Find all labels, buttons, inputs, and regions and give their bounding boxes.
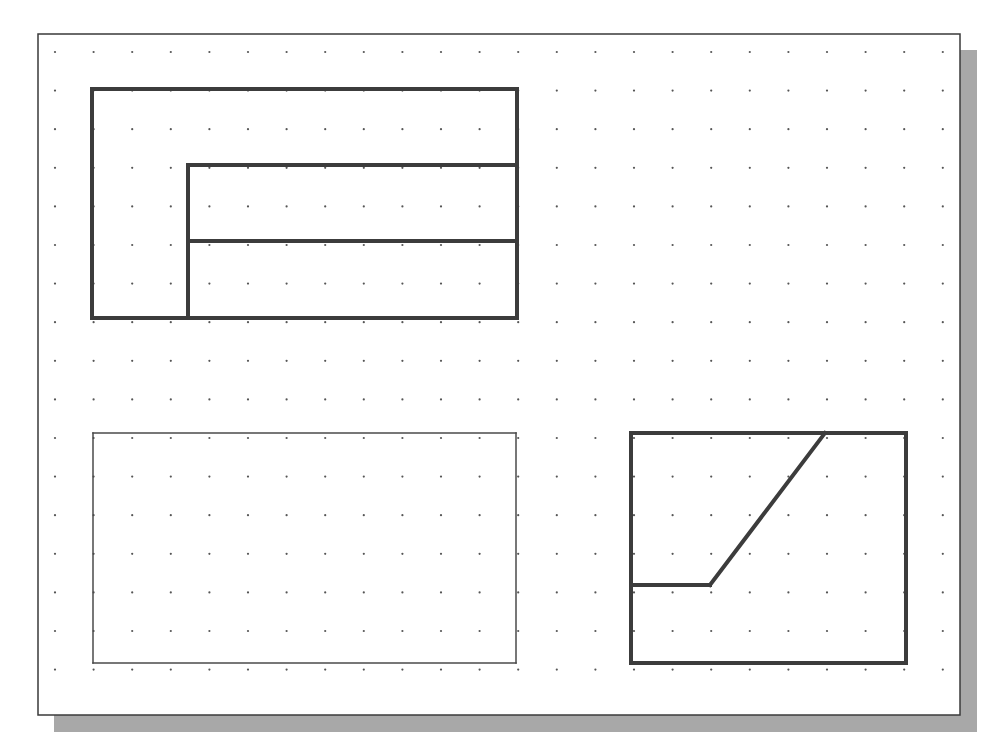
grid-dot xyxy=(942,514,944,516)
grid-dot xyxy=(324,321,326,323)
grid-dot xyxy=(131,205,133,207)
grid-dot xyxy=(170,398,172,400)
grid-dot xyxy=(865,283,867,285)
grid-dot xyxy=(749,167,751,169)
grid-dot xyxy=(440,553,442,555)
grid-dot xyxy=(594,630,596,632)
grid-dot xyxy=(363,205,365,207)
grid-dot xyxy=(865,128,867,130)
grid-dot xyxy=(903,669,905,671)
grid-dot xyxy=(826,321,828,323)
grid-dot xyxy=(710,630,712,632)
grid-dot xyxy=(749,283,751,285)
grid-dot xyxy=(324,591,326,593)
grid-dot xyxy=(54,360,56,362)
grid-dot xyxy=(787,553,789,555)
grid-dot xyxy=(247,167,249,169)
grid-dot xyxy=(749,244,751,246)
grid-dot xyxy=(787,244,789,246)
grid-dot xyxy=(479,360,481,362)
grid-dot xyxy=(633,283,635,285)
grid-dot xyxy=(247,51,249,53)
grid-dot xyxy=(749,514,751,516)
grid-dot xyxy=(556,90,558,92)
grid-dot xyxy=(594,90,596,92)
grid-dot xyxy=(363,244,365,246)
grid-dot xyxy=(93,398,95,400)
grid-dot xyxy=(479,630,481,632)
grid-dot xyxy=(826,283,828,285)
grid-dot xyxy=(710,128,712,130)
grid-dot xyxy=(54,398,56,400)
drawing-sheet[interactable] xyxy=(38,34,960,715)
grid-dot xyxy=(903,90,905,92)
grid-dot xyxy=(517,669,519,671)
grid-dot xyxy=(401,553,403,555)
grid-dot xyxy=(633,244,635,246)
grid-dot xyxy=(401,283,403,285)
grid-dot xyxy=(54,167,56,169)
grid-dot xyxy=(208,283,210,285)
grid-dot xyxy=(247,437,249,439)
grid-dot xyxy=(672,514,674,516)
grid-dot xyxy=(517,437,519,439)
grid-dot xyxy=(865,205,867,207)
grid-dot xyxy=(594,553,596,555)
grid-dot xyxy=(479,205,481,207)
grid-dot xyxy=(710,283,712,285)
grid-dot xyxy=(903,321,905,323)
grid-dot xyxy=(672,90,674,92)
grid-dot xyxy=(131,51,133,53)
grid-dot xyxy=(440,476,442,478)
grid-dot xyxy=(170,128,172,130)
grid-dot xyxy=(170,553,172,555)
grid-dot xyxy=(54,205,56,207)
grid-dot xyxy=(710,514,712,516)
grid-dot xyxy=(208,128,210,130)
grid-dot xyxy=(286,630,288,632)
grid-dot xyxy=(672,398,674,400)
drawing-canvas[interactable] xyxy=(0,0,1001,752)
grid-dot xyxy=(633,669,635,671)
grid-dot xyxy=(440,398,442,400)
grid-dot xyxy=(401,321,403,323)
grid-dot xyxy=(826,205,828,207)
grid-dot xyxy=(363,514,365,516)
grid-dot xyxy=(749,90,751,92)
grid-dot xyxy=(363,591,365,593)
grid-dot xyxy=(324,360,326,362)
grid-dot xyxy=(324,669,326,671)
grid-dot xyxy=(247,476,249,478)
grid-dot xyxy=(749,398,751,400)
grid-dot xyxy=(54,244,56,246)
grid-dot xyxy=(208,514,210,516)
grid-dot xyxy=(942,167,944,169)
grid-dot xyxy=(208,476,210,478)
grid-dot xyxy=(787,360,789,362)
grid-dot xyxy=(286,398,288,400)
grid-dot xyxy=(401,167,403,169)
grid-dot xyxy=(749,630,751,632)
grid-dot xyxy=(672,630,674,632)
grid-dot xyxy=(787,128,789,130)
grid-dot xyxy=(517,591,519,593)
grid-dot xyxy=(787,90,789,92)
grid-dot xyxy=(324,244,326,246)
grid-dot xyxy=(903,167,905,169)
grid-dot xyxy=(286,591,288,593)
grid-dot xyxy=(324,167,326,169)
grid-dot xyxy=(440,514,442,516)
grid-dot xyxy=(594,51,596,53)
grid-dot xyxy=(633,514,635,516)
grid-dot xyxy=(54,283,56,285)
grid-dot xyxy=(517,476,519,478)
grid-dot xyxy=(247,244,249,246)
grid-dot xyxy=(440,321,442,323)
grid-dot xyxy=(401,437,403,439)
grid-dot xyxy=(556,244,558,246)
grid-dot xyxy=(633,398,635,400)
grid-dot xyxy=(247,630,249,632)
grid-dot xyxy=(479,591,481,593)
grid-dot xyxy=(672,437,674,439)
grid-dot xyxy=(363,321,365,323)
